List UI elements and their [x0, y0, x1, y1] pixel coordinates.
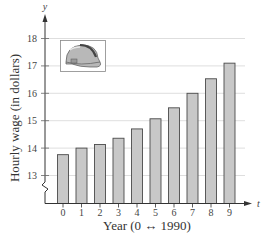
bar: [95, 145, 106, 204]
x-tick-label: 2: [98, 207, 103, 218]
x-tick-label: 3: [116, 207, 121, 218]
x-tick-label: 7: [190, 207, 195, 218]
bar: [150, 119, 161, 204]
bar: [113, 138, 124, 203]
axis-break-icon: [42, 182, 48, 192]
bar: [169, 108, 180, 204]
y-axis-var: y: [42, 1, 48, 12]
bar: [224, 63, 235, 203]
x-tick-label: 9: [227, 207, 232, 218]
bar-chart: y t 131415161718 0123456789 Year (0 ↔ 19…: [0, 0, 265, 240]
bar: [76, 148, 87, 203]
bar: [187, 93, 198, 203]
x-tick-label: 5: [153, 207, 158, 218]
y-tick-labels: 131415161718: [27, 33, 49, 181]
bar: [206, 79, 217, 204]
y-axis: y: [42, 1, 48, 204]
y-tick-label: 18: [27, 33, 37, 44]
x-tick-label: 1: [79, 207, 84, 218]
bars: [58, 63, 236, 203]
y-tick-label: 13: [27, 170, 37, 181]
hard-hat-icon: [61, 41, 106, 72]
y-tick-label: 14: [27, 143, 37, 154]
bar: [132, 129, 143, 204]
x-tick-label: 6: [172, 207, 177, 218]
y-tick-label: 16: [27, 88, 37, 99]
x-tick-label: 0: [61, 207, 66, 218]
x-tick-label: 8: [209, 207, 214, 218]
x-tick-labels: 0123456789: [61, 204, 233, 219]
x-axis-title: Year (0 ↔ 1990): [103, 218, 191, 233]
y-axis-title: Hourly wage (in dollars): [7, 54, 22, 182]
x-axis-arrow-icon: [244, 201, 252, 206]
y-tick-label: 15: [27, 115, 37, 126]
bar: [58, 155, 69, 204]
x-tick-label: 4: [135, 207, 140, 218]
y-axis-arrow-icon: [43, 14, 48, 22]
x-axis-var: t: [257, 198, 260, 209]
y-tick-label: 17: [27, 60, 37, 71]
